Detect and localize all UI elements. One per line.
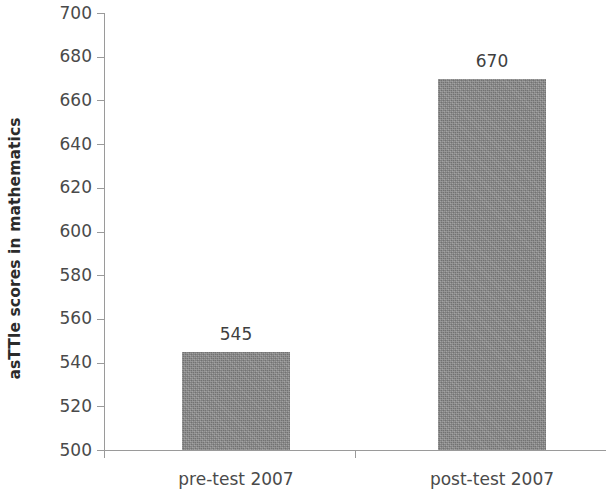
- y-axis-tick-label: 660: [12, 92, 92, 109]
- x-axis-tick-start: [104, 443, 105, 458]
- y-axis-tick-label: 540: [12, 354, 92, 371]
- y-axis-tick: [97, 13, 105, 14]
- y-axis-tick: [97, 319, 105, 320]
- y-axis-tick-label: 580: [12, 267, 92, 284]
- y-axis-tick: [97, 406, 105, 407]
- bar-value-label: 670: [432, 53, 552, 70]
- x-axis-tick-divider: [355, 450, 356, 458]
- bar: [182, 352, 290, 450]
- y-axis-tick-label: 680: [12, 48, 92, 65]
- y-axis-tick-label: 500: [12, 442, 92, 459]
- bar: [438, 79, 546, 450]
- y-axis-tick-label: 520: [12, 398, 92, 415]
- y-axis-tick: [97, 100, 105, 101]
- y-axis-tick-label: 600: [12, 223, 92, 240]
- y-axis-tick-label: 640: [12, 136, 92, 153]
- bar-chart: asTTle scores in mathematics 70068066064…: [0, 0, 611, 497]
- y-axis-tick-label: 700: [12, 5, 92, 22]
- y-axis-tick: [97, 144, 105, 145]
- y-axis-tick: [97, 275, 105, 276]
- y-axis-tick: [97, 363, 105, 364]
- x-axis-category-label: pre-test 2007: [146, 471, 326, 488]
- y-axis-tick: [97, 188, 105, 189]
- y-axis-tick: [97, 57, 105, 58]
- y-axis-tick: [97, 232, 105, 233]
- x-axis-category-label: post-test 2007: [402, 471, 582, 488]
- bar-value-label: 545: [176, 326, 296, 343]
- y-axis-tick-label: 620: [12, 179, 92, 196]
- y-axis-title: asTTle scores in mathematics: [0, 0, 30, 497]
- y-axis-tick-label: 560: [12, 310, 92, 327]
